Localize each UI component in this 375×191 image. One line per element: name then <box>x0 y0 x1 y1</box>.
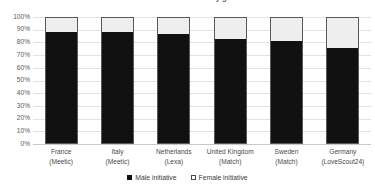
bar-group[interactable] <box>101 17 134 144</box>
x-label-country: Italy <box>111 148 123 155</box>
bar-segment-male[interactable] <box>215 39 246 143</box>
x-axis-tick-label: Netherlands(Lexa) <box>146 147 202 166</box>
x-label-brand: (Meetic) <box>89 157 145 167</box>
x-label-country: Germany <box>329 148 356 155</box>
x-axis-tick-label: Sweden(Match) <box>258 147 314 166</box>
legend-swatch-female-icon <box>191 175 196 180</box>
x-label-brand: (Meetic) <box>33 157 89 167</box>
chart-title: Share of first contacts by gender <box>0 0 375 2</box>
bar-segment-male[interactable] <box>46 32 77 143</box>
x-label-country: Netherlands <box>156 148 192 155</box>
bar-segment-male[interactable] <box>102 32 133 143</box>
bar-group[interactable] <box>45 17 78 144</box>
gridline <box>33 144 371 145</box>
bar-segment-male[interactable] <box>271 41 302 144</box>
bar-segment-female[interactable] <box>45 17 78 144</box>
x-axis-tick-label: France(Meetic) <box>33 147 89 166</box>
legend-item[interactable]: Female initiative <box>191 174 248 181</box>
bar-group[interactable] <box>326 17 359 144</box>
bar-group[interactable] <box>214 17 247 144</box>
x-label-brand: (Match) <box>202 157 258 167</box>
y-axis-tick: 30% <box>0 103 30 110</box>
legend-item[interactable]: Male initiative <box>127 174 176 181</box>
legend-label: Female initiative <box>199 174 248 181</box>
bar-segment-female[interactable] <box>101 17 134 144</box>
x-axis-tick-label: Germany(LoveScout24) <box>315 147 371 166</box>
y-axis-tick: 70% <box>0 52 30 59</box>
x-label-brand: (Lexa) <box>146 157 202 167</box>
x-axis-tick-label: United Kingdom(Match) <box>202 147 258 166</box>
bar-group[interactable] <box>270 17 303 144</box>
legend-label: Male initiative <box>135 174 176 181</box>
bar-segment-female[interactable] <box>157 17 190 144</box>
bar-segment-male[interactable] <box>158 34 189 143</box>
y-axis-tick: 10% <box>0 128 30 135</box>
x-label-country: United Kingdom <box>207 148 254 155</box>
bar-segment-female[interactable] <box>326 17 359 144</box>
x-label-country: France <box>51 148 72 155</box>
x-axis-labels: France(Meetic)Italy(Meetic)Netherlands(L… <box>33 147 371 173</box>
x-label-brand: (LoveScout24) <box>315 157 371 167</box>
legend-swatch-male-icon <box>127 175 132 180</box>
chart-legend: Male initiativeFemale initiative <box>0 174 375 181</box>
x-label-brand: (Match) <box>258 157 314 167</box>
bar-group[interactable] <box>157 17 190 144</box>
y-axis-tick: 100% <box>0 14 30 21</box>
bar-series <box>33 17 371 144</box>
y-axis-tick: 60% <box>0 65 30 72</box>
bar-segment-female[interactable] <box>214 17 247 144</box>
y-axis-tick: 20% <box>0 115 30 122</box>
y-axis-tick: 50% <box>0 77 30 84</box>
y-axis-tick: 80% <box>0 39 30 46</box>
x-axis-tick-label: Italy(Meetic) <box>89 147 145 166</box>
chart-container: 100% Share of first contacts by gender 1… <box>0 0 375 191</box>
y-axis-labels: 100%90%80%70%60%50%40%30%20%10%0% <box>0 17 30 144</box>
y-axis-tick: 40% <box>0 90 30 97</box>
bar-segment-female[interactable] <box>270 17 303 144</box>
y-axis-tick: 0% <box>0 141 30 148</box>
bar-segment-male[interactable] <box>327 48 358 143</box>
y-axis-tick: 90% <box>0 26 30 33</box>
x-label-country: Sweden <box>275 148 299 155</box>
plot-area <box>33 17 371 144</box>
